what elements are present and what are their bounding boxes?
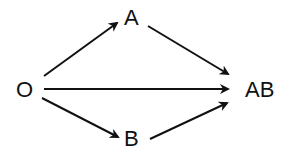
- node-o: O: [16, 79, 33, 101]
- node-b: B: [124, 128, 139, 150]
- edge-a-ab: [148, 26, 228, 74]
- edge-b-ab: [150, 103, 227, 139]
- node-a: A: [124, 7, 139, 29]
- edge-o-b: [42, 98, 118, 137]
- diagram: O A B AB: [0, 0, 290, 158]
- edge-o-a: [44, 23, 117, 76]
- node-ab: AB: [245, 79, 274, 101]
